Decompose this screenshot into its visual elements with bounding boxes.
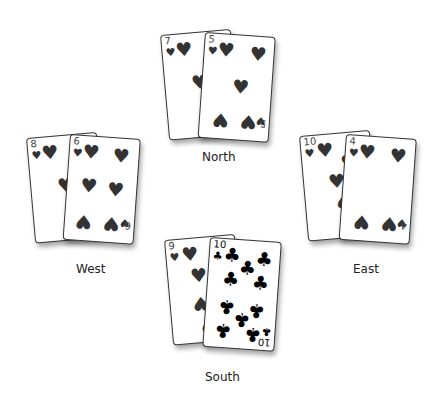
east-card-front[interactable]: 4 ♥ ♥ ♥ ♥ ♥ ♥ 4: [339, 134, 417, 245]
card-rank: 10: [258, 337, 271, 348]
heart-icon: ♥: [380, 214, 398, 234]
heart-icon: ♥: [41, 142, 60, 162]
heart-icon: ♥: [102, 214, 120, 234]
heart-icon: ♥: [389, 146, 407, 166]
heart-icon: ♥: [74, 212, 92, 232]
heart-icon: ♥: [217, 40, 235, 60]
club-icon: ♣: [221, 269, 239, 289]
west-card-front[interactable]: 6 ♥ ♥ ♥ ♥ ♥ ♥ ♥ ♥ 6: [63, 134, 141, 245]
card-rank: 4: [400, 220, 407, 230]
west-label: West: [76, 262, 106, 276]
east-label: East: [353, 262, 379, 276]
heart-icon: ♥: [169, 252, 180, 264]
club-icon: ♣: [251, 273, 269, 293]
heart-icon: ♥: [189, 265, 208, 285]
heart-icon: ♥: [80, 176, 98, 196]
card-rank: 7: [164, 36, 171, 47]
heart-icon: ♥: [304, 148, 315, 160]
heart-icon: ♥: [181, 244, 200, 264]
heart-icon: ♥: [82, 142, 100, 162]
heart-icon: ♥: [207, 45, 218, 57]
heart-icon: ♥: [112, 146, 130, 166]
club-icon: ♣: [212, 250, 223, 262]
card-rank: 4: [349, 136, 356, 146]
heart-icon: ♥: [316, 140, 335, 160]
heart-icon: ♥: [211, 110, 229, 130]
card-rank: 8: [30, 139, 37, 150]
heart-icon: ♥: [239, 112, 257, 132]
heart-icon: ♥: [232, 77, 250, 97]
card-rank: 5: [259, 118, 266, 128]
heart-icon: ♥: [107, 180, 125, 200]
card-rank: 5: [208, 34, 215, 44]
heart-icon: ♥: [352, 212, 370, 232]
south-card-front[interactable]: 10 ♣ ♣ ♣ ♣ ♣ ♣ ♣ ♣ ♣ ♣ ♣ ♣ 10: [202, 237, 281, 352]
heart-icon: ♥: [175, 39, 194, 59]
south-label: South: [205, 370, 240, 384]
heart-icon: ♥: [348, 147, 359, 159]
card-rank: 6: [124, 220, 131, 230]
north-card-front[interactable]: 5 ♥ ♥ ♥ ♥ ♥ ♥ ♥ 5: [198, 32, 276, 143]
north-label: North: [202, 150, 236, 164]
heart-icon: ♥: [249, 44, 267, 64]
club-icon: ♣: [255, 249, 273, 269]
card-rank: 9: [168, 241, 175, 252]
club-icon: ♣: [214, 321, 232, 341]
heart-icon: ♥: [358, 142, 376, 162]
club-icon: ♣: [261, 326, 272, 338]
card-rank: 6: [73, 136, 80, 146]
heart-icon: ♥: [72, 147, 83, 159]
